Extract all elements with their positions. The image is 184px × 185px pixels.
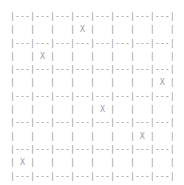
grid-separator-line: |---|---|---|---|---|---|---|---| xyxy=(10,116,175,129)
grid-separator-line: |---|---|---|---|---|---|---|---| xyxy=(10,10,175,23)
ascii-grid-board: |---|---|---|---|---|---|---|---|| | | |… xyxy=(10,10,175,183)
grid-row: | | | | | | | X | | xyxy=(10,130,175,143)
grid-row: | | | | | | | | X | xyxy=(10,76,175,89)
grid-separator-line: |---|---|---|---|---|---|---|---| xyxy=(10,37,175,50)
grid-separator-line: |---|---|---|---|---|---|---|---| xyxy=(10,170,175,183)
grid-separator-line: |---|---|---|---|---|---|---|---| xyxy=(10,90,175,103)
grid-row: | | | | | X | | | | xyxy=(10,103,175,116)
grid-separator-line: |---|---|---|---|---|---|---|---| xyxy=(10,143,175,156)
grid-row: | X | | | | | | | | xyxy=(10,156,175,169)
grid-separator-line: |---|---|---|---|---|---|---|---| xyxy=(10,63,175,76)
grid-row: | | | | X | | | | | xyxy=(10,23,175,36)
grid-row: | | X | | | | | | | xyxy=(10,50,175,63)
